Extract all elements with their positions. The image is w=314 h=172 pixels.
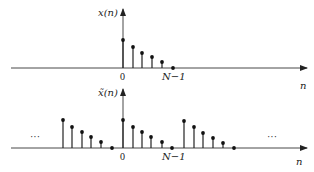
stem-dot [201,131,205,135]
bottom-x-label: n [296,156,302,167]
bottom-y-label: x̃(n) [98,87,118,98]
stem-dot [182,119,186,123]
ellipsis-right: ··· [267,131,277,142]
sequence-diagram: x(n) 0 N−1 n x̃(n) 0 N−1 n ··· ··· [0,0,314,172]
stem-dot [121,118,125,122]
stem-dot [170,146,174,150]
bottom-tick-zero: 0 [120,151,125,162]
stem-dot [121,38,125,42]
stem-dot [140,130,144,134]
stem-dot [192,125,196,129]
top-x-label: n [300,80,306,91]
stem-dot [160,60,164,64]
stem-dot [70,125,74,129]
stem-dot [211,136,215,140]
stem-dot [150,55,154,59]
bottom-stems [61,118,236,150]
stem-dot [80,130,84,134]
stem-dot [131,45,135,49]
stem-dot [232,146,236,150]
stem-dot [160,140,164,144]
top-tick-zero: 0 [120,71,125,82]
ellipsis-left: ··· [30,131,40,142]
stem-dot [140,51,144,55]
top-y-label: x(n) [98,7,118,18]
bottom-plot: x̃(n) 0 N−1 n ··· ··· [11,87,307,167]
bottom-tick-end: N−1 [161,151,186,162]
top-plot: x(n) 0 N−1 n [11,7,307,91]
top-stems [121,38,175,70]
stem-dot [89,135,93,139]
stem-dot [149,135,153,139]
stem-dot [61,118,65,122]
stem-dot [131,125,135,129]
stem-dot [110,146,114,150]
stem-dot [171,66,175,70]
top-tick-end: N−1 [161,71,186,82]
stem-dot [221,141,225,145]
stem-dot [99,140,103,144]
